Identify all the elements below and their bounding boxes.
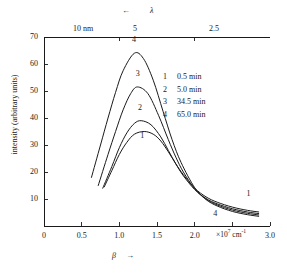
legend-key: 3 — [163, 96, 177, 109]
curve-label-4: 4 — [132, 35, 136, 44]
legend: 1 0.5 min 2 5.0 min 3 34.5 min 4 65.0 mi… — [163, 71, 223, 121]
curve-label-2: 2 — [138, 103, 142, 112]
curve-label-1: 1 — [140, 131, 144, 140]
legend-value: 5.0 min — [177, 84, 223, 97]
lambda-arrow-icon: ← — [122, 6, 130, 15]
y-axis-tick-label: 70 — [22, 32, 38, 41]
x-unit-tail-exponent: -1 — [242, 228, 247, 234]
lambda-symbol: λ — [150, 6, 153, 15]
top-axis-tick-label-5: 5 — [133, 24, 137, 33]
x-axis-tick-label: 1.5 — [145, 231, 169, 240]
legend-value: 0.5 min — [177, 71, 223, 84]
x-axis-title: β → — [112, 251, 134, 260]
lambda-axis-header: ← λ — [122, 6, 153, 15]
x-axis-tick-label: 2.0 — [183, 231, 207, 240]
y-axis-tick-label: 10 — [22, 194, 38, 203]
legend-key: 4 — [163, 109, 177, 122]
x-axis-tick-label: 0 — [32, 231, 56, 240]
legend-value: 65.0 min — [177, 109, 223, 122]
x-axis-tick-label: 1.0 — [107, 231, 131, 240]
y-axis-tick-label: 50 — [22, 86, 38, 95]
x-axis-unit-label: ×107 cm-1 — [216, 228, 246, 239]
curve-label-3: 3 — [136, 69, 140, 78]
figure-chart: ← λ 10 nm 5 2.5 intensity (arbitrary uni… — [0, 0, 287, 275]
legend-row: 1 0.5 min — [163, 71, 223, 84]
x-axis-tick-label: 3.0 — [258, 231, 282, 240]
y-axis-tick-label: 40 — [22, 113, 38, 122]
beta-symbol: β — [112, 251, 116, 260]
beta-arrow-icon: → — [126, 251, 134, 260]
y-axis-title: intensity (arbitrary units) — [10, 55, 19, 175]
legend-value: 34.5 min — [177, 96, 223, 109]
legend-row: 3 34.5 min — [163, 96, 223, 109]
curve-label-1: 1 — [246, 189, 250, 198]
legend-key: 1 — [163, 71, 177, 84]
y-axis-tick-label: 20 — [22, 167, 38, 176]
legend-row: 4 65.0 min — [163, 109, 223, 122]
legend-key: 2 — [163, 84, 177, 97]
y-axis-tick-label: 30 — [22, 140, 38, 149]
x-unit-tail: cm — [230, 230, 241, 239]
top-axis-tick-label-10nm: 10 nm — [73, 24, 93, 33]
y-axis-tick-label: 60 — [22, 59, 38, 68]
legend-row: 2 5.0 min — [163, 84, 223, 97]
top-axis-tick-label-2p5: 2.5 — [209, 24, 219, 33]
curve-label-4: 4 — [213, 209, 217, 218]
data-curve-1 — [104, 132, 258, 212]
x-unit-mantissa: ×10 — [216, 230, 228, 239]
x-axis-tick-label: 0.5 — [70, 231, 94, 240]
